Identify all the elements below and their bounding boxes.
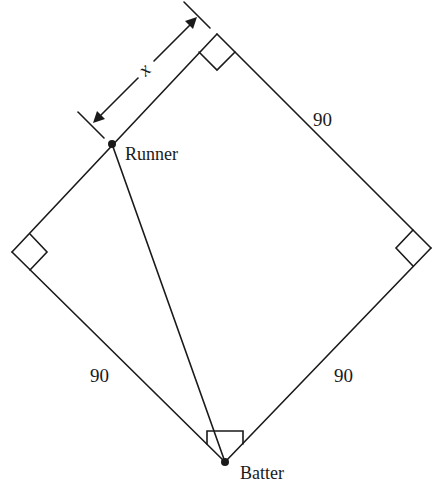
dimension-line-lower-segment (100, 78, 138, 116)
right-angle-marker-first (396, 230, 413, 266)
dimension-tick-upper (184, 2, 210, 28)
right-angle-marker-home (207, 431, 243, 444)
runner-label: Runner (125, 145, 178, 163)
side-home-to-first (225, 248, 431, 462)
side-first-to-second (217, 34, 431, 248)
runner-to-batter-line (112, 144, 225, 462)
batter-point (221, 458, 229, 466)
right-angle-marker-second (199, 52, 235, 70)
batter-label: Batter (240, 464, 284, 482)
side-length-label-upper-right: 90 (313, 110, 332, 129)
side-length-label-lower-right: 90 (334, 366, 353, 385)
dimension-line-upper-segment (154, 24, 191, 61)
runner-point (108, 140, 116, 148)
right-angle-marker-third (30, 234, 47, 270)
side-third-to-home (12, 252, 225, 462)
side-length-label-lower-left: 90 (90, 366, 109, 385)
baseball-diamond-diagram (0, 0, 443, 490)
